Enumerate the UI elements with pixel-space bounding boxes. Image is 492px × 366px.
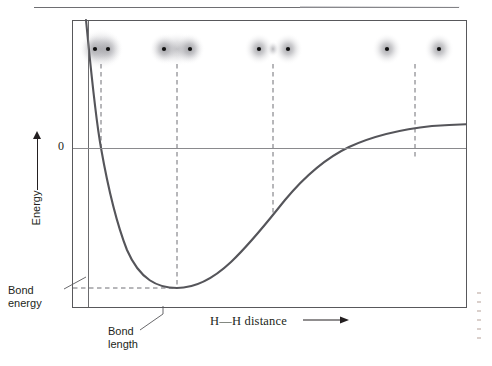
atoms-fully-merged-icon (78, 28, 124, 70)
bond-energy-callout: Bond energy (8, 284, 64, 310)
chart-canvas (0, 0, 492, 366)
bond-length-callout-line1: Bond (108, 325, 164, 338)
x-axis-arrow-icon (303, 317, 349, 324)
atom-isolated-left-icon (372, 33, 402, 65)
margin-artifact (477, 310, 481, 312)
bond-length-callout-line2: length (108, 338, 164, 351)
energy-axis-label-group: Energy (26, 128, 46, 228)
dashed-guides (73, 64, 415, 288)
potential-energy-figure: 0 Energy H—H distance Bond energy Bond l… (0, 0, 492, 366)
atom-isolated-right-icon (424, 33, 454, 65)
bond-energy-leader (64, 277, 86, 289)
x-axis-label: H—H distance (210, 314, 287, 329)
y-axis-label: Energy (30, 178, 42, 238)
y-axis-line (88, 21, 89, 307)
atoms-bonded-icon (149, 32, 205, 66)
margin-artifact (477, 301, 481, 303)
page-margin-artifacts (477, 292, 485, 362)
bond-energy-callout-line2: energy (8, 297, 64, 310)
margin-artifact (477, 319, 481, 321)
atom-illustrations (78, 28, 454, 70)
callout-leader-lines (64, 277, 163, 330)
margin-artifact (477, 328, 481, 330)
margin-artifact (477, 292, 481, 294)
potential-energy-curve (86, 20, 466, 288)
zero-energy-line (73, 148, 466, 149)
bond-energy-callout-line1: Bond (8, 284, 64, 297)
atoms-partial-overlap-icon (244, 33, 303, 65)
bond-length-callout: Bond length (108, 325, 164, 351)
margin-artifact (477, 337, 481, 339)
zero-tick-label: 0 (58, 140, 64, 152)
